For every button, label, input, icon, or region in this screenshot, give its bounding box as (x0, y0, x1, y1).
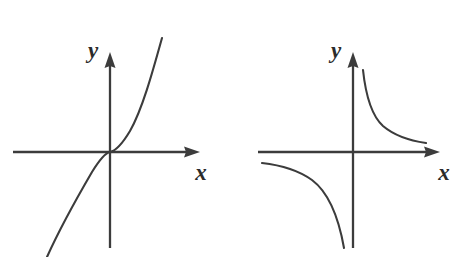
hyperbola-plot: x y (258, 38, 450, 248)
cubic-plot-y-axis-arrowhead (105, 52, 116, 68)
hyperbola-plot-x-axis-label: x (437, 160, 450, 185)
cubic-plot-x-axis-label: x (194, 160, 207, 185)
figure-canvas: x y x y (0, 0, 453, 257)
math-figure-pair: x y x y (0, 0, 453, 257)
hyperbola-plot-x-axis-arrowhead (424, 147, 440, 158)
cubic-curve (47, 38, 162, 257)
hyperbola-plot-y-axis-arrowhead (348, 52, 359, 68)
cubic-plot: x y (13, 38, 207, 257)
hyperbola-branch-lower-left (262, 163, 344, 248)
hyperbola-plot-y-axis-label: y (328, 38, 342, 63)
hyperbola-branch-upper-right (363, 70, 426, 143)
cubic-plot-y-axis-label: y (85, 38, 99, 63)
cubic-plot-x-axis-arrowhead (184, 147, 200, 158)
